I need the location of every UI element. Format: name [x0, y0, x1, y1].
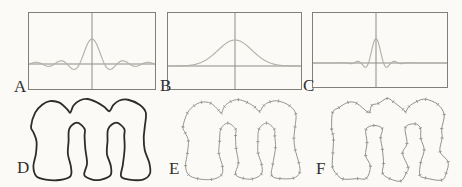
contour-F-marker [419, 138, 422, 139]
contour-D-path [31, 99, 151, 180]
contour-E-marker [243, 177, 244, 180]
contour-F-marker [407, 167, 410, 168]
contour-F-marker [343, 177, 344, 180]
contour-F-marker [425, 176, 426, 179]
plot-panel-a [25, 9, 159, 93]
contour-F-markers [330, 97, 450, 183]
contour-e-svg [180, 97, 303, 182]
contour-E-marker [234, 174, 237, 175]
contour-F-marker [419, 162, 422, 163]
contour-E-marker [260, 164, 263, 165]
contour-E-marker [294, 113, 297, 114]
contour-F-marker [364, 129, 367, 130]
contour-F-marker [438, 151, 441, 152]
contour-d-svg [28, 96, 153, 183]
shape-panel-f [327, 97, 450, 183]
contour-F-marker [348, 101, 349, 104]
contour-F-marker [381, 173, 384, 174]
contour-E-marker [257, 153, 260, 154]
contour-E-marker [259, 110, 260, 113]
contour-F-marker [443, 114, 446, 115]
contour-E-marker [297, 162, 300, 163]
panel-a-label: A [14, 78, 26, 95]
contour-E-path [183, 100, 300, 180]
plot-a-svg [25, 9, 159, 93]
contour-E-marker [252, 177, 253, 180]
contour-E-marker [270, 100, 271, 103]
plot-b-svg [164, 9, 305, 93]
shape-panel-e [180, 97, 303, 182]
contour-F-marker [331, 112, 334, 113]
figure-canvas: A B C D E F [0, 0, 462, 187]
contour-E-markers [181, 98, 301, 181]
plot-panel-b [164, 9, 305, 93]
contour-F-marker [447, 161, 450, 162]
contour-F-marker [445, 173, 448, 174]
contour-F-marker [331, 167, 334, 168]
contour-E-marker [278, 100, 279, 103]
contour-E-marker [298, 172, 301, 173]
contour-E-marker [293, 177, 294, 180]
contour-F-marker [404, 127, 407, 128]
contour-E-marker [294, 150, 297, 151]
panel-c-label: C [303, 77, 314, 94]
contour-F-path [332, 98, 449, 181]
contour-F-marker [441, 179, 442, 182]
contour-F-marker [400, 180, 401, 183]
plot-panel-c [309, 9, 451, 91]
panel-d-label: D [17, 159, 29, 176]
contour-F-marker [331, 134, 334, 135]
contour-E-marker [197, 177, 198, 180]
contour-F-marker [418, 175, 421, 176]
panel-e-label: E [169, 160, 179, 177]
contour-F-marker [419, 128, 422, 129]
panel-b-label: B [160, 77, 171, 94]
plot-c-svg [309, 9, 451, 91]
shape-panel-d [28, 96, 153, 183]
contour-f-svg [327, 97, 450, 183]
contour-E-marker [184, 132, 187, 133]
panel-f-label: F [316, 160, 325, 177]
